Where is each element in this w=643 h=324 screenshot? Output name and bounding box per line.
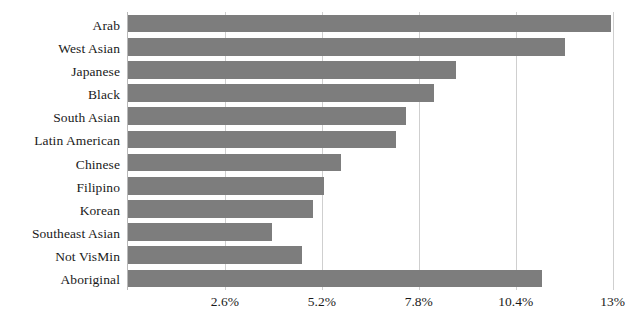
bar	[128, 131, 396, 149]
tick-label: 7.8%	[405, 292, 433, 312]
category-label: Japanese	[0, 63, 120, 81]
bar	[128, 61, 456, 79]
bar	[128, 270, 542, 288]
category-label: Chinese	[0, 156, 120, 174]
category-label: Aboriginal	[0, 271, 120, 289]
tick-label: 13%	[600, 292, 625, 312]
category-label: Filipino	[0, 179, 120, 197]
category-label: Black	[0, 86, 120, 104]
category-label: Korean	[0, 202, 120, 220]
bar	[128, 200, 313, 218]
category-label: Latin American	[0, 132, 120, 150]
bars-layer	[128, 12, 632, 290]
bar	[128, 223, 272, 241]
bar	[128, 15, 611, 33]
category-label: Not VisMin	[0, 248, 120, 266]
bar	[128, 107, 406, 125]
category-label: Arab	[0, 17, 120, 35]
bar	[128, 84, 434, 102]
category-label: West Asian	[0, 40, 120, 58]
plot-area	[127, 12, 632, 290]
tick-label: 10.4%	[498, 292, 533, 312]
bar	[128, 177, 324, 195]
bar	[128, 38, 565, 56]
tick-label: 2.6%	[211, 292, 239, 312]
bar-chart: ArabWest AsianJapaneseBlackSouth AsianLa…	[0, 0, 643, 324]
category-label: Southeast Asian	[0, 225, 120, 243]
value-axis: 2.6%5.2%7.8%10.4%13%	[127, 292, 632, 316]
bar	[128, 154, 341, 172]
tick-label: 5.2%	[308, 292, 336, 312]
category-axis: ArabWest AsianJapaneseBlackSouth AsianLa…	[0, 14, 120, 288]
category-label: South Asian	[0, 109, 120, 127]
bar	[128, 246, 302, 264]
